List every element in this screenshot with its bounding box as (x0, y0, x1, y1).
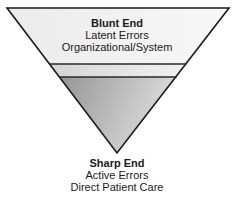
active-errors-label: Active Errors (0, 169, 234, 181)
sharp-end-band (59, 77, 176, 153)
sharp-end-title: Sharp End (0, 157, 234, 169)
organizational-system-label: Organizational/System (0, 41, 234, 53)
blunt-end-title: Blunt End (0, 17, 234, 29)
middle-band (50, 64, 187, 77)
latent-errors-label: Latent Errors (0, 29, 234, 41)
direct-patient-care-label: Direct Patient Care (0, 181, 234, 193)
